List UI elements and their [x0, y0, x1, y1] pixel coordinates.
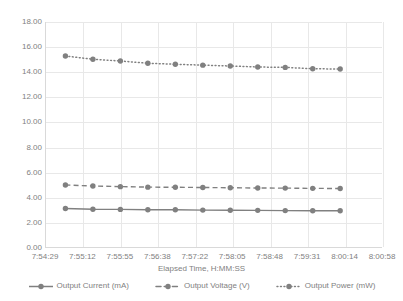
data-point-marker [310, 208, 315, 213]
data-point-marker [255, 185, 260, 190]
data-point-marker [118, 184, 123, 189]
legend-marker-icon [155, 282, 181, 291]
legend-label: Output Power (mW) [305, 281, 376, 291]
legend-label: Output Voltage (V) [184, 281, 250, 291]
chart-legend: Output Current (mA)Output Voltage (V)Out… [0, 281, 403, 291]
data-point-marker [145, 207, 150, 212]
data-point-marker [200, 207, 205, 212]
data-point-marker [255, 208, 260, 213]
data-point-marker [145, 61, 150, 66]
y-axis-tick-label: 2.00 [2, 219, 42, 227]
data-point-marker [173, 207, 178, 212]
data-point-marker [310, 186, 315, 191]
y-axis-tick-label: 8.00 [2, 144, 42, 152]
data-point-marker [63, 182, 68, 187]
y-axis-tick-label: 18.00 [2, 18, 42, 26]
data-point-marker [118, 58, 123, 63]
legend-item-0[interactable]: Output Current (mA) [28, 281, 129, 291]
y-axis-tick-labels: 0.002.004.006.008.0010.0012.0014.0016.00… [0, 22, 42, 248]
x-axis-tick-label: 7:55:12 [69, 252, 96, 262]
y-axis-tick-label: 10.00 [2, 118, 42, 126]
x-axis-tick-label: 8:00:14 [331, 252, 358, 262]
x-axis-tick-label: 7:56:38 [144, 252, 171, 262]
data-point-marker [63, 53, 68, 58]
x-axis-tick-label: 7:55:55 [107, 252, 134, 262]
legend-item-2[interactable]: Output Power (mW) [276, 281, 376, 291]
data-point-marker [283, 185, 288, 190]
x-axis-tick-label: 8:00:58 [369, 252, 396, 262]
data-point-marker [118, 207, 123, 212]
data-point-marker [283, 65, 288, 70]
data-point-marker [337, 186, 342, 191]
data-point-marker [228, 63, 233, 68]
x-axis-tick-labels: 7:54:297:55:127:55:557:56:387:57:227:58:… [45, 252, 382, 264]
chart-container: 0.002.004.006.008.0010.0012.0014.0016.00… [0, 0, 403, 301]
legend-label: Output Current (mA) [57, 281, 129, 291]
x-axis-tick-label: 7:58:48 [256, 252, 283, 262]
y-axis-tick-label: 14.00 [2, 68, 42, 76]
data-point-marker [337, 208, 342, 213]
x-axis-tick-label: 7:57:22 [181, 252, 208, 262]
x-axis-tick-label: 7:59:31 [294, 252, 321, 262]
y-axis-tick-label: 6.00 [2, 169, 42, 177]
y-axis-tick-label: 4.00 [2, 194, 42, 202]
data-point-marker [63, 206, 68, 211]
x-axis-tick-label: 7:58:05 [219, 252, 246, 262]
gridline-vertical [383, 22, 384, 247]
series-layer [46, 22, 382, 247]
legend-item-1[interactable]: Output Voltage (V) [155, 281, 250, 291]
y-axis-tick-label: 12.00 [2, 93, 42, 101]
data-point-marker [228, 208, 233, 213]
data-point-marker [173, 185, 178, 190]
x-axis-title: Elapsed Time, H:MM:SS [0, 264, 403, 274]
data-point-marker [90, 207, 95, 212]
data-point-marker [200, 62, 205, 67]
data-point-marker [90, 183, 95, 188]
data-point-marker [283, 208, 288, 213]
data-point-marker [145, 184, 150, 189]
data-point-marker [228, 185, 233, 190]
data-point-marker [337, 66, 342, 71]
data-point-marker [255, 64, 260, 69]
data-point-marker [310, 66, 315, 71]
x-axis-tick-label: 7:54:29 [32, 252, 59, 262]
data-point-marker [90, 57, 95, 62]
legend-marker-icon [276, 282, 302, 291]
data-point-marker [200, 185, 205, 190]
legend-marker-icon [28, 282, 54, 291]
plot-area [45, 22, 382, 248]
data-point-marker [173, 62, 178, 67]
y-axis-tick-label: 0.00 [2, 244, 42, 252]
y-axis-tick-label: 16.00 [2, 43, 42, 51]
